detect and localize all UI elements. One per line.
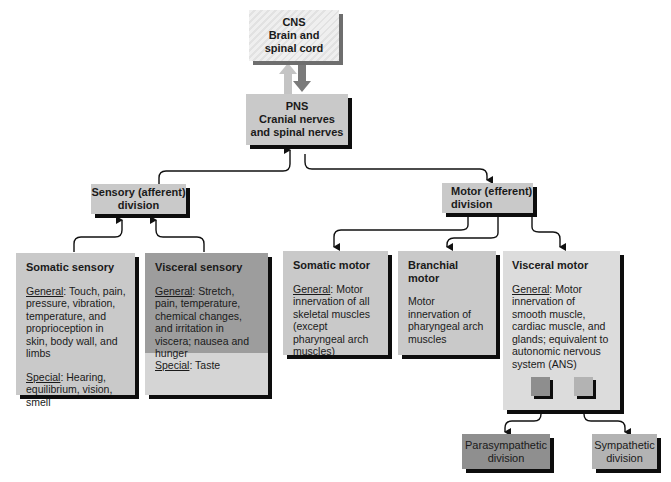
visceral-sensory-general: General: Stretch, pain, temperature, che…: [155, 285, 260, 360]
visceral-motor-title: Visceral motor: [512, 259, 612, 272]
visceral-sensory-special-section: Special: Taste: [145, 353, 268, 395]
sensory-division-box: Sensory (afferent) division: [91, 184, 186, 214]
cns-line3: spinal cord: [265, 42, 324, 55]
visceral-motor-general: General: Motor innervation of smooth mus…: [512, 283, 612, 371]
sympathetic-division-box: Sympathetic division: [592, 434, 657, 469]
motor-division-box: Motor (efferent) division: [442, 183, 533, 213]
pns-line2: Cranial nerves: [259, 113, 335, 126]
pns-title: PNS: [286, 100, 309, 113]
visceral-sensory-box: Visceral sensory General: Stretch, pain,…: [145, 253, 268, 395]
parasympathetic-marker: [531, 377, 550, 396]
somatic-motor-general: General: Motor innervation of all skelet…: [293, 283, 380, 358]
somatic-sensory-box: Somatic sensory General: Touch, pain, pr…: [16, 253, 135, 395]
motor-division-line2: division: [451, 198, 493, 211]
branchial-motor-text: Motor innervation of pharyngeal arch mus…: [408, 295, 488, 345]
somatic-sensory-title: Somatic sensory: [26, 261, 127, 274]
visceral-sensory-general-section: Visceral sensory General: Stretch, pain,…: [145, 253, 268, 353]
cns-pns-arrows: [279, 63, 311, 94]
motor-division-line1: Motor (efferent): [451, 185, 532, 198]
pns-box: PNS Cranial nerves and spinal nerves: [246, 94, 348, 145]
somatic-motor-title: Somatic motor: [293, 259, 380, 272]
sensory-division-line1: Sensory (afferent): [91, 186, 185, 199]
somatic-motor-box: Somatic motor General: Motor innervation…: [283, 251, 388, 355]
pns-line3: and spinal nerves: [251, 126, 344, 139]
visceral-sensory-title: Visceral sensory: [155, 261, 260, 274]
somatic-sensory-general: General: Touch, pain, pressure, vibratio…: [26, 285, 127, 360]
sensory-division-line2: division: [118, 199, 160, 212]
sympathetic-line2: division: [606, 452, 643, 465]
sympathetic-marker: [574, 377, 593, 396]
cns-box: CNS Brain and spinal cord: [249, 10, 339, 61]
parasympathetic-division-box: Parasympathetic division: [462, 434, 550, 469]
parasympathetic-line1: Parasympathetic: [465, 439, 547, 452]
parasympathetic-line2: division: [488, 452, 525, 465]
cns-line2: Brain and: [269, 29, 320, 42]
cns-title: CNS: [282, 16, 305, 29]
branchial-motor-title: Branchial motor: [408, 259, 488, 284]
somatic-sensory-special: Special: Hearing, equilibrium, vision, s…: [26, 371, 127, 409]
sympathetic-line1: Sympathetic: [594, 439, 655, 452]
branchial-motor-box: Branchial motor Motor innervation of pha…: [398, 251, 496, 355]
visceral-motor-box: Visceral motor General: Motor innervatio…: [503, 251, 620, 410]
